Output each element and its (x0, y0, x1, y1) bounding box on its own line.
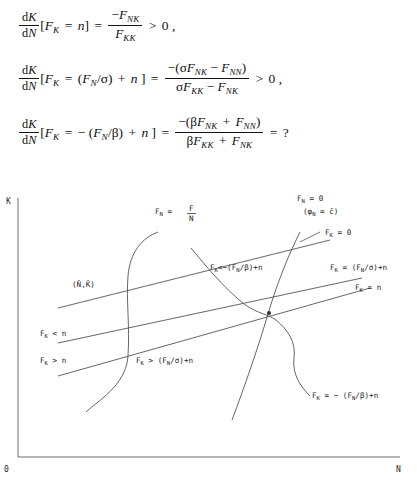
label-fk-equals-zero: FK = 0 (325, 228, 352, 238)
equation-1-tail: > 0 , (147, 18, 176, 33)
fn-frac-numerator: F (189, 204, 194, 213)
equation-2-tail: > 0 , (254, 71, 283, 86)
label-fk-greater-than-sigma: FK > (FN/σ)+n (136, 356, 193, 366)
equation-2-bracket: [FK = (FN/σ) + n ] (40, 71, 145, 86)
line-fk-equals-n (58, 288, 370, 376)
equation-3-tail: = ? (268, 125, 289, 140)
equation-line-2: dK dN [FK = (FN/σ) + n ] = −(σFNK − FNN)… (18, 63, 282, 97)
label-fk-greater-than-n: FK > n (40, 356, 66, 366)
label-equilibrium-nk-hat: (N̂,K̂) (72, 279, 95, 289)
equilibrium-point (267, 311, 271, 315)
label-fk-equals-n: FK = n (355, 283, 381, 293)
equation-1-equals: = (92, 18, 104, 33)
label-fk-equals-neg-beta: FK = − (FN/β)+n (312, 391, 378, 401)
label-fk-less-than-n: FK < n (40, 329, 66, 339)
label-fn-equals-zero: FN = 0 (297, 194, 324, 204)
fn-frac-denominator: N (189, 214, 194, 223)
equation-2-rhs-fraction: −(σFNK − FNN) σFKK − FNK (165, 61, 249, 95)
equation-line-3: dK dN [FK = − (FN/β) + n ] = −(βFNK + FN… (18, 117, 289, 151)
x-axis-label: N (396, 465, 401, 474)
equation-2-equals: = (149, 71, 161, 86)
line-fk-equals-zero (58, 240, 330, 308)
origin-label: 0 (4, 465, 9, 474)
label-fk-equals-sigma: FK = (FN/σ)+n (330, 263, 387, 273)
y-axis-label: K (6, 197, 11, 206)
equation-3-bracket: [FK = − (FN/β) + n ] (40, 125, 156, 140)
curve-fn-equals-f-over-n (86, 232, 158, 412)
curve-fn-equals-zero (232, 232, 300, 420)
label-fn-equals-f-over-n: FN = F N (155, 204, 196, 223)
equation-1-rhs-fraction: −FNK FKK (108, 8, 142, 42)
equation-3-rhs-fraction: −(βFNK + FNN) βFKK + FNK (175, 115, 263, 149)
derivative-operator-3: dK dN (19, 118, 39, 146)
label-fk-lt-neg-beta: FK<−(FN/β)+n (210, 263, 262, 273)
equation-3-equals: = (159, 125, 171, 140)
svg-text:FN =: FN = (155, 207, 173, 217)
derivative-operator-1: dK dN (19, 11, 39, 39)
leader-fk-equals-zero (300, 232, 320, 242)
label-phi-n-equals-cbar: (φN = c̄) (303, 207, 338, 217)
derivative-operator-2: dK dN (19, 64, 39, 92)
equation-line-1: dK dN [FK = n] = −FNK FKK > 0 , (18, 10, 175, 44)
equation-1-bracket: [FK = n] (40, 18, 89, 33)
equations-block: dK dN [FK = n] = −FNK FKK > 0 , dK dN [F… (0, 0, 417, 180)
phase-diagram: K N 0 FN = F N FN = 0 (φN = c̄) FK = 0 F… (0, 180, 417, 490)
